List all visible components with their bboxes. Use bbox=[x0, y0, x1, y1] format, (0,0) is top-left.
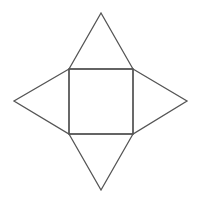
triangle-bottom bbox=[69, 134, 133, 190]
triangle-right bbox=[133, 69, 187, 134]
pyramid-net-diagram bbox=[0, 0, 199, 198]
base-square bbox=[69, 69, 133, 134]
triangle-left bbox=[14, 69, 69, 134]
triangle-top bbox=[69, 13, 133, 69]
